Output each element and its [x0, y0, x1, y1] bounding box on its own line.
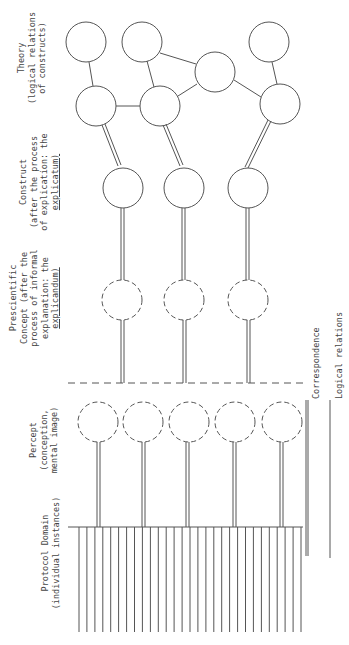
theory-level	[66, 22, 300, 126]
prescientific-divider-links	[121, 320, 250, 383]
construct-title: Construct	[18, 122, 29, 242]
theory-node	[249, 22, 289, 62]
construct-subtitle-2: of explication: the	[39, 122, 50, 242]
percept-node	[78, 402, 118, 442]
prescientific-subtitle-2: process of informal	[29, 240, 40, 356]
construct-subtitle-1: (after the process	[29, 122, 40, 242]
theory-node	[76, 86, 116, 126]
construct-node	[228, 168, 268, 208]
construct-level	[103, 168, 268, 208]
protocol-title: Protocol Domain	[40, 488, 51, 618]
prescientific-node	[164, 280, 204, 320]
theory-subtitle-2: of constructs)	[37, 0, 48, 118]
legend-correspondence-symbol	[306, 400, 308, 556]
diagram-canvas: Theory (logical relations of constructs)…	[0, 0, 349, 645]
theory-construct-links	[102, 120, 271, 168]
theory-node	[140, 86, 180, 126]
construct-node	[103, 168, 143, 208]
percept-node	[262, 402, 302, 442]
prescientific-node	[102, 280, 142, 320]
percept-subtitle-2: mental image)	[49, 390, 60, 490]
percept-level	[78, 402, 302, 442]
theory-node	[260, 84, 300, 124]
prescientific-label: Prescientific Concept (after the process…	[8, 240, 61, 356]
theory-label: Theory (logical relations of constructs)	[16, 0, 48, 118]
legend-correspondence-text: Correspondence	[311, 329, 322, 399]
prescientific-subtitle-4: explicandum)	[50, 240, 61, 356]
protocol-subtitle: (individual instances)	[51, 488, 62, 618]
prescientific-level	[102, 280, 268, 320]
theory-title: Theory	[16, 0, 27, 118]
percept-label: Percept (conception, mental image)	[28, 390, 60, 490]
percept-node	[169, 402, 209, 442]
construct-subtitle-3: explicatum)	[50, 122, 61, 242]
legend-logical-label: Logical relations	[334, 309, 345, 399]
prescientific-node	[228, 280, 268, 320]
percept-subtitle-1: (conception,	[39, 390, 50, 490]
percept-protocol-links	[97, 442, 283, 527]
percept-node	[215, 402, 255, 442]
prescientific-title: Prescientific	[8, 240, 19, 356]
theory-node	[195, 52, 235, 92]
theory-subtitle-1: (logical relations	[27, 0, 38, 118]
construct-prescientific-links	[121, 208, 249, 280]
prescientific-subtitle-3: explanation: the	[40, 240, 51, 356]
legend-logical-text: Logical relations	[334, 309, 345, 399]
prescientific-subtitle-1: Concept (after the	[19, 240, 30, 356]
protocol-label: Protocol Domain (individual instances)	[40, 488, 61, 618]
construct-node	[164, 168, 204, 208]
percept-title: Percept	[28, 390, 39, 490]
theory-node	[66, 22, 106, 62]
construct-label: Construct (after the process of explicat…	[18, 122, 60, 242]
percept-node	[123, 402, 163, 442]
theory-node	[122, 22, 162, 62]
legend-correspondence-label: Correspondence	[311, 329, 322, 399]
protocol-instances	[79, 527, 301, 632]
